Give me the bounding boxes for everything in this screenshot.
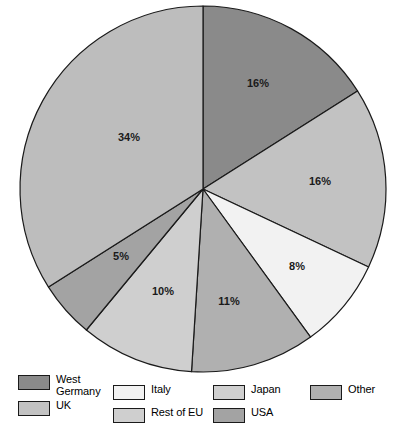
- pie-slice-value-label: 5%: [113, 250, 129, 262]
- pie-slice-value-label: 16%: [309, 175, 331, 187]
- legend-label-other: Other: [348, 384, 375, 396]
- legend-item-west-germany[interactable]: West Germany: [18, 374, 101, 397]
- legend-swatch-japan: [213, 385, 245, 400]
- legend-item-usa[interactable]: USA: [213, 407, 273, 423]
- legend-label-usa: USA: [251, 407, 273, 419]
- legend-swatch-rest-of-eu: [113, 408, 145, 423]
- legend-swatch-west-germany: [18, 375, 50, 390]
- legend-item-italy[interactable]: Italy: [113, 384, 171, 400]
- pie-slice-value-label: 34%: [118, 131, 140, 143]
- legend-item-other[interactable]: Other: [310, 384, 375, 400]
- chart-legend: West GermanyUKItalyRest of EUJapanUSAOth…: [0, 372, 409, 437]
- legend-swatch-italy: [113, 385, 145, 400]
- legend-item-rest-of-eu[interactable]: Rest of EU: [113, 407, 203, 423]
- legend-swatch-other: [310, 385, 342, 400]
- pie-slice-value-label: 16%: [247, 77, 269, 89]
- legend-item-uk[interactable]: UK: [18, 400, 71, 416]
- legend-swatch-usa: [213, 408, 245, 423]
- pie-slice-value-label: 11%: [218, 295, 240, 307]
- legend-label-italy: Italy: [151, 384, 171, 396]
- legend-swatch-uk: [18, 401, 50, 416]
- legend-item-japan[interactable]: Japan: [213, 384, 280, 400]
- legend-label-west-germany: West Germany: [56, 374, 101, 397]
- pie-slice-value-label: 10%: [152, 285, 174, 297]
- legend-label-rest-of-eu: Rest of EU: [151, 407, 203, 419]
- legend-label-uk: UK: [56, 400, 71, 412]
- pie-slice-value-label: 8%: [289, 260, 305, 272]
- legend-label-japan: Japan: [251, 384, 280, 396]
